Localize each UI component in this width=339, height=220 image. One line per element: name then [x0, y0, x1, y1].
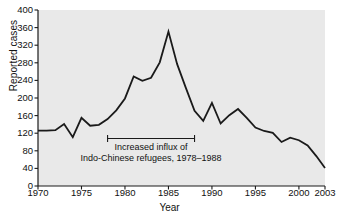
annotation-line-1: Increased influx of	[0, 142, 321, 152]
chart-figure: Reported cases Year 04080120160200240280…	[0, 0, 339, 220]
annotation-line-2: Indo-Chinese refugees, 1978–1988	[0, 153, 321, 163]
plot-area	[0, 0, 339, 220]
